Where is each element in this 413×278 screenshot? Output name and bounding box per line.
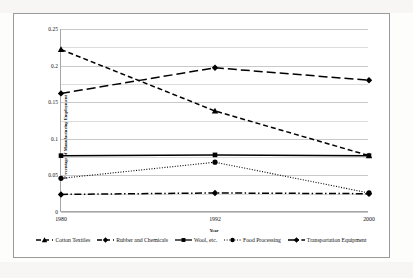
legend-item-transportation-equipment[interactable]: Transportation Equipment: [288, 236, 367, 244]
data-point-marker: [230, 238, 234, 242]
x-tick-label: 1992: [209, 216, 221, 222]
legend-swatch-food-processing-icon: [224, 236, 241, 244]
series-layer: [61, 29, 369, 212]
series-line: [61, 162, 369, 193]
data-point-marker: [58, 90, 64, 96]
chart-screenshot: Percentage of Manufacturing Employment Y…: [0, 0, 413, 278]
data-point-marker: [212, 65, 218, 71]
data-point-marker: [366, 191, 372, 197]
series-transportation-equipment: [58, 190, 372, 198]
y-tick-label: 0.05: [48, 172, 58, 178]
legend-item-wool-etc[interactable]: Wool, etc.: [175, 236, 217, 244]
series-line: [61, 68, 369, 94]
legend-swatch-rubber-and-chemicals-icon: [97, 236, 114, 244]
series-cotton-textiles: [58, 46, 372, 158]
legend-label-rubber-and-chemicals: Rubber and Chemicals: [116, 237, 168, 243]
y-tick-label: 0.15: [48, 99, 58, 105]
legend-swatch-wool-etc-icon: [175, 236, 192, 244]
data-point-marker: [212, 160, 217, 165]
chart-legend: Cotton TextilesRubber and ChemicalsWool,…: [14, 236, 389, 244]
x-tick-label: 2000: [363, 216, 375, 222]
plot-area: 00.050.10.150.20.25 198019922000: [60, 29, 368, 212]
legend-label-wool-etc: Wool, etc.: [194, 237, 217, 243]
data-point-marker: [294, 237, 299, 242]
chart-frame: Percentage of Manufacturing Employment Y…: [13, 13, 390, 258]
data-point-marker: [212, 190, 218, 196]
y-tick-label: 0: [55, 209, 58, 215]
legend-item-food-processing[interactable]: Food Processing: [224, 236, 281, 244]
series-wool-etc: [59, 153, 372, 158]
legend-item-cotton-textiles[interactable]: Cotton Textiles: [36, 236, 90, 244]
data-point-marker: [213, 153, 218, 158]
gridline: [61, 212, 368, 213]
scan-texture: [0, 0, 413, 13]
data-point-marker: [103, 237, 108, 242]
data-point-marker: [59, 153, 64, 158]
legend-label-food-processing: Food Processing: [243, 237, 281, 243]
y-tick-label: 0.2: [51, 63, 58, 69]
legend-label-transportation-equipment: Transportation Equipment: [307, 237, 367, 243]
data-point-marker: [58, 176, 63, 181]
data-point-marker: [58, 46, 64, 52]
x-tick-label: 1980: [55, 216, 67, 222]
y-tick-label: 0.1: [51, 136, 58, 142]
scan-texture: [0, 262, 413, 278]
data-point-marker: [58, 191, 64, 197]
plot-wrapper: Percentage of Manufacturing Employment Y…: [14, 14, 391, 259]
y-tick-label: 0.25: [48, 26, 58, 32]
legend-swatch-transportation-equipment-icon: [288, 236, 305, 244]
series-rubber-and-chemicals: [58, 65, 372, 97]
legend-swatch-cotton-textiles-icon: [36, 236, 53, 244]
data-point-marker: [366, 77, 372, 83]
data-point-marker: [182, 238, 186, 242]
legend-label-cotton-textiles: Cotton Textiles: [55, 237, 90, 243]
legend-item-rubber-and-chemicals[interactable]: Rubber and Chemicals: [97, 236, 168, 244]
x-axis-title: Year: [60, 228, 368, 233]
data-point-marker: [367, 153, 372, 158]
